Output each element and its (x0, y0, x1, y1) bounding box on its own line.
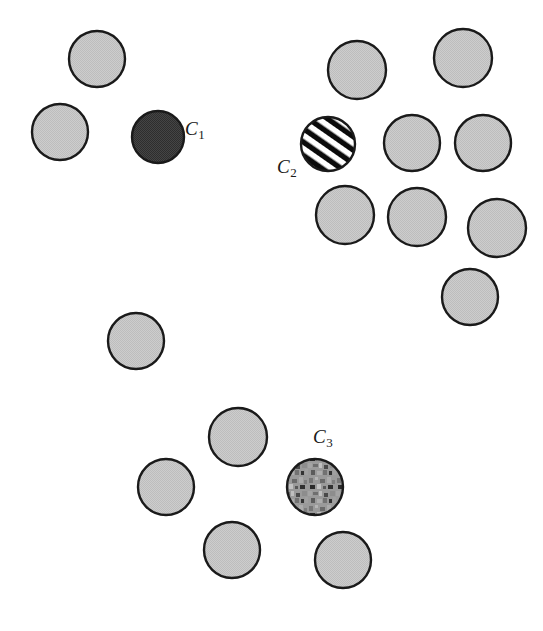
circle-node (316, 186, 374, 244)
circle-node (328, 41, 386, 99)
circle-node (315, 532, 371, 588)
circle-node (138, 459, 194, 515)
circle-node (434, 29, 492, 87)
circle-node (108, 313, 164, 369)
node-label-subscript: 3 (326, 435, 333, 450)
plain-circle-layer (32, 29, 526, 588)
highlighted-circle-node-c1 (132, 111, 184, 163)
node-label-c2: C2 (277, 157, 297, 179)
circle-node (468, 199, 526, 257)
circle-node (69, 31, 125, 87)
node-label-c3: C3 (313, 427, 333, 449)
node-label-subscript: 2 (290, 165, 297, 180)
node-label-base: C (313, 426, 326, 447)
circle-node (32, 104, 88, 160)
circle-node (442, 269, 498, 325)
highlighted-circle-node-c2 (301, 117, 355, 171)
figure-canvas: C1C2C3 (0, 0, 543, 631)
circle-node (388, 188, 446, 246)
circle-node (209, 408, 267, 466)
circle-node (204, 522, 260, 578)
circle-node (384, 115, 440, 171)
node-label-c1: C1 (185, 119, 205, 141)
highlighted-circle-node-c3 (287, 459, 343, 515)
circle-scatter-figure (0, 0, 543, 631)
node-label-subscript: 1 (198, 127, 205, 142)
circle-node (455, 115, 511, 171)
node-label-base: C (185, 118, 198, 139)
node-label-base: C (277, 156, 290, 177)
